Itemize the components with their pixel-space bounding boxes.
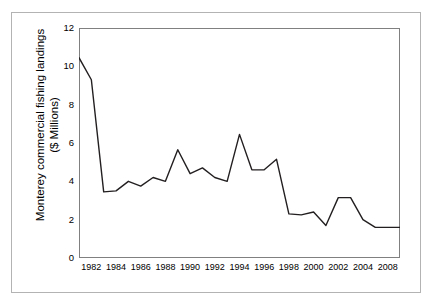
x-tick-label: 2004 [353,262,373,273]
x-tick-label: 2008 [378,262,398,273]
chart-figure: Monterey commercial fishing landings ($ … [0,0,432,305]
x-axis-tick-labels: 1982198419861988199019921994199619982000… [79,262,400,276]
x-tick-label: 1998 [279,262,299,273]
x-tick-label: 1990 [180,262,200,273]
x-tick-label: 2002 [328,262,348,273]
y-tick-label: 8 [52,100,74,110]
x-tick-label: 1984 [106,262,126,273]
x-tick-label: 1994 [229,262,249,273]
y-tick-label: 0 [52,253,74,263]
y-tick-label: 2 [52,215,74,225]
y-axis-tick-labels: 121086420 [48,28,74,258]
x-tick-label: 1996 [254,262,274,273]
data-series-line [79,58,400,228]
plot-area [79,28,400,258]
y-tick-label: 6 [52,138,74,148]
x-tick-label: 2000 [304,262,324,273]
x-tick-label: 1988 [155,262,175,273]
x-tick-label: 1992 [205,262,225,273]
y-axis-title-line-1: Monterey commercial fishing landings [33,29,47,221]
y-tick-label: 12 [52,23,74,33]
x-tick-label: 1986 [131,262,151,273]
y-tick-label: 4 [52,176,74,186]
x-tick-label: 1982 [81,262,101,273]
y-tick-label: 10 [52,61,74,71]
